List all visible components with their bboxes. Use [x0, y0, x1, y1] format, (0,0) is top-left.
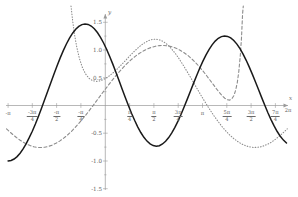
x-axis-title: x — [289, 95, 292, 101]
num: -π — [53, 110, 60, 115]
den: 2 — [53, 117, 60, 122]
x-tick-label-neg-pi-4: -π 4 — [77, 110, 84, 122]
x-tick-label-pi-4: π 4 — [127, 110, 132, 122]
y-tick-label-1-5: 1.5 — [88, 19, 102, 25]
x-tick-label-pi: π — [200, 110, 205, 116]
y-tick-label-neg-0-5: -0.5 — [86, 130, 102, 136]
axes-group — [6, 14, 288, 190]
x-tick-label-2pi: 2π — [284, 107, 293, 113]
den: 4 — [271, 117, 280, 122]
num: π — [151, 110, 156, 115]
y-tick-label-0-5: 0.5 — [88, 75, 102, 81]
y-tick-label-1-0: 1.0 — [88, 47, 102, 53]
den: 2 — [247, 117, 256, 122]
num: 5π — [222, 110, 231, 115]
x-tick-label-neg-3pi-4: -3π 4 — [27, 110, 37, 122]
den: 4 — [174, 117, 183, 122]
num: 7π — [271, 110, 280, 115]
y-axis-arrow — [103, 14, 107, 19]
y-tick-label-neg-1-5: -1.5 — [86, 186, 102, 192]
den: 4 — [127, 117, 132, 122]
series-dashed-approximation — [7, 6, 244, 148]
series-cosine-exact — [8, 24, 286, 161]
x-tick-label-3pi-4: 3π 4 — [174, 110, 183, 122]
den: 4 — [222, 117, 231, 122]
x-tick-label-neg-pi-2: -π 2 — [53, 110, 60, 122]
den: 4 — [27, 117, 37, 122]
den: 4 — [77, 117, 84, 122]
chart-container: -π -3π 4 -π 2 -π 4 π 4 π — [0, 0, 298, 197]
x-tick-label-3pi-2: 3π 2 — [247, 110, 256, 122]
series-dotted-approximation — [71, 6, 287, 147]
plot-canvas — [0, 0, 298, 197]
num: π — [127, 110, 132, 115]
x-tick-label-pi-2: π 2 — [151, 110, 156, 122]
num: -3π — [27, 110, 37, 115]
x-tick-label-5pi-4: 5π 4 — [222, 110, 231, 122]
num: 2π — [284, 108, 293, 113]
num: 3π — [247, 110, 256, 115]
num: -π — [77, 110, 84, 115]
y-tick-label-neg-1-0: -1.0 — [86, 158, 102, 164]
num: 3π — [174, 110, 183, 115]
y-axis-title: y — [108, 9, 111, 15]
num: π — [200, 111, 205, 116]
x-tick-label-neg-pi: -π — [5, 110, 12, 116]
x-tick-label-7pi-4: 7π 4 — [271, 110, 280, 122]
den: 2 — [151, 117, 156, 122]
x-tick-neg-pi-text: -π — [5, 111, 12, 116]
